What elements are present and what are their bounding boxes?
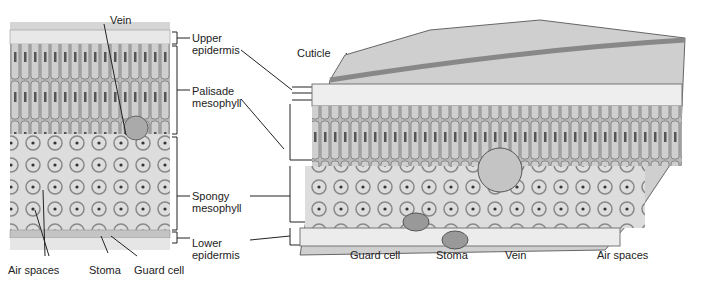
palisade-mesophyll-label: Palisademesophyll: [192, 85, 242, 109]
micrograph-stoma-label: Stoma: [89, 264, 121, 276]
micrograph-vein-label: Vein: [110, 14, 131, 26]
illustration-stoma-label: Stoma: [436, 249, 468, 261]
cuticle-label: Cuticle: [297, 47, 331, 59]
illustration-guard-cell-label: Guard cell: [350, 249, 400, 261]
micrograph-guard-cell-label: Guard cell: [134, 264, 184, 276]
micrograph-air-spaces-label: Air spaces: [8, 264, 59, 276]
upper-epidermis-label: Upperepidermis: [192, 32, 240, 56]
leaf-illustration: [300, 20, 685, 255]
illustration-air-spaces-label: Air spaces: [597, 249, 648, 261]
spongy-mesophyll-label: Spongymesophyll: [192, 190, 242, 214]
leaf-cross-section-diagram: [0, 0, 702, 283]
lower-epidermis-label: Lowerepidermis: [192, 237, 240, 261]
illustration-vein-label: Vein: [505, 249, 526, 261]
micrograph: [10, 22, 170, 250]
